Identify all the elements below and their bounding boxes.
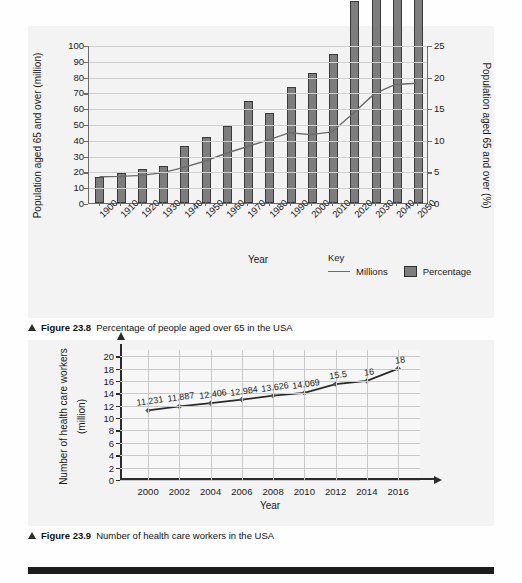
- chart2-x-axis-title: Year: [120, 500, 420, 511]
- chart1-gridline: [89, 188, 427, 189]
- legend-item-millions: Millions: [356, 266, 388, 277]
- chart2-y-tick-label: 8: [90, 425, 114, 436]
- chart1-y-tick-label: 20: [58, 168, 84, 178]
- chart2-gridline-v: [211, 350, 212, 480]
- chart1-x-tick-mark: [141, 202, 142, 206]
- chart2-y-tick-label: 4: [90, 450, 114, 461]
- chart2-x-tick-label: 2002: [169, 486, 190, 497]
- chart2-x-tick-label: 2008: [263, 486, 284, 497]
- chart1-gridline: [89, 62, 427, 63]
- chart2-y-tick-mark: [116, 443, 120, 444]
- chart2-gridline-h: [120, 393, 420, 394]
- chart1-y-tick-mark: [84, 109, 88, 110]
- chart2-x-tick-label: 2010: [294, 486, 315, 497]
- triangle-icon: [28, 532, 36, 539]
- chart1-y-tick-label: 60: [58, 104, 84, 114]
- chart2-gridline-h: [120, 443, 420, 444]
- legend-line-swatch: [328, 271, 350, 272]
- chart2-gridline-v: [273, 350, 274, 480]
- figure-23-9-caption-text: Number of health care workers in the USA: [96, 530, 274, 541]
- chart1-gridline: [89, 93, 427, 94]
- chart1-x-tick-mark: [99, 202, 100, 206]
- chart1-y-axis-left-label: Population aged 65 and over (million): [30, 42, 46, 228]
- chart1-y2-tick-label: 20: [434, 73, 460, 83]
- chart1-line-path: [100, 83, 417, 176]
- chart1-y-tick-mark: [84, 157, 88, 158]
- chart2-y-tick-label: 14: [90, 388, 114, 399]
- chart1-y-tick-label: 70: [58, 89, 84, 99]
- chart1-y-tick-label: 30: [58, 152, 84, 162]
- chart2-gridline-h: [120, 356, 420, 357]
- chart2-data-label: 18: [394, 354, 405, 365]
- chart1-x-tick-mark: [205, 202, 206, 206]
- chart1-y-tick-mark: [84, 78, 88, 79]
- chart1-y-axis-right-label: Population aged 65 and over (%): [478, 42, 494, 228]
- chart2-gridline-h: [120, 480, 420, 481]
- chart2-gridline-h: [120, 430, 420, 431]
- chart2-gridline-h: [120, 406, 420, 407]
- chart1-y-tick-label: 90: [58, 57, 84, 67]
- chart2-y-tick-mark: [116, 381, 120, 382]
- figure-23-8-number: Figure 23.8: [41, 322, 91, 333]
- chart1-y-tick-label: 100: [58, 41, 84, 51]
- chart2-y-tick-label: 2: [90, 462, 114, 473]
- chart1-y-tick-mark: [84, 141, 88, 142]
- chart1-y-tick-mark: [84, 125, 88, 126]
- chart1-gridline: [89, 78, 427, 79]
- figure-23-9-caption: Figure 23.9 Number of health care worker…: [28, 530, 274, 541]
- chart1-x-tick-mark: [417, 202, 418, 206]
- chart1-y2-tick-mark: [428, 78, 432, 79]
- chart1-y-tick-label: 80: [58, 73, 84, 83]
- chart2-y-tick-mark: [116, 393, 120, 394]
- chart2-x-tick-label: 2006: [231, 486, 252, 497]
- chart1-y2-tick-mark: [428, 46, 432, 47]
- chart1-gridline: [89, 46, 427, 47]
- legend-bar-swatch: [404, 266, 417, 277]
- chart2-y-tick-label: 20: [90, 351, 114, 362]
- chart2-y-tick-label: 16: [90, 375, 114, 386]
- chart1-y-tick-label: 10: [58, 183, 84, 193]
- chart2-x-tick-label: 2016: [388, 486, 409, 497]
- chart1-x-tick-mark: [162, 202, 163, 206]
- figure-23-9-number: Figure 23.9: [41, 530, 91, 541]
- chart2-y-tick-mark: [116, 369, 120, 370]
- chart2-y-tick-label: 0: [90, 475, 114, 486]
- chart2-y-axis-label-line1: Number of health care workers: [54, 346, 72, 486]
- chart1-y2-tick-mark: [428, 172, 432, 173]
- chart1-x-tick-mark: [311, 202, 312, 206]
- chart2-gridline-v: [148, 350, 149, 480]
- chart1-gridline: [89, 109, 427, 110]
- chart2-y-tick-label: 18: [90, 363, 114, 374]
- chart1-x-tick-mark: [184, 202, 185, 206]
- chart2-y-tick-mark: [116, 418, 120, 419]
- chart2-y-tick-mark: [116, 356, 120, 357]
- chart1-y-tick-mark: [84, 46, 88, 47]
- chart2-gridline-h: [120, 455, 420, 456]
- chart1-x-tick-mark: [226, 202, 227, 206]
- figure-23-8: Population aged 65 and over (million) Po…: [28, 26, 494, 318]
- textbook-page: Population aged 65 and over (million) Po…: [0, 0, 522, 583]
- chart2-y-tick-mark: [116, 468, 120, 469]
- chart1-x-tick-mark: [269, 202, 270, 206]
- chart2-gridline-h: [120, 418, 420, 419]
- chart2-y-tick-mark: [116, 455, 120, 456]
- figure-23-9: Number of health care workers (million) …: [28, 340, 494, 526]
- chart2-y-axis-label-line2: (million): [72, 346, 90, 486]
- chart2-gridline-v: [179, 350, 180, 480]
- chart1-y-tick-label: 0: [58, 199, 84, 209]
- chart1-y2-tick-label: 25: [434, 41, 460, 51]
- figure-23-8-caption: Figure 23.8 Percentage of people aged ov…: [28, 322, 293, 333]
- chart2-gridline-v: [398, 350, 399, 480]
- chart2-data-label: 16: [363, 366, 374, 377]
- chart1-x-tick-mark: [290, 202, 291, 206]
- chart1-y-tick-label: 40: [58, 136, 84, 146]
- y-axis-arrow-icon: [117, 332, 125, 340]
- chart2-y-tick-label: 6: [90, 437, 114, 448]
- chart1-x-tick-mark: [120, 202, 121, 206]
- chart1-gridline: [89, 141, 427, 142]
- chart2-gridline-h: [120, 369, 420, 370]
- page-footer-rule: [28, 567, 494, 574]
- chart2-x-tick-label: 2000: [138, 486, 159, 497]
- chart1-gridline: [89, 172, 427, 173]
- chart2-y-tick-mark: [116, 430, 120, 431]
